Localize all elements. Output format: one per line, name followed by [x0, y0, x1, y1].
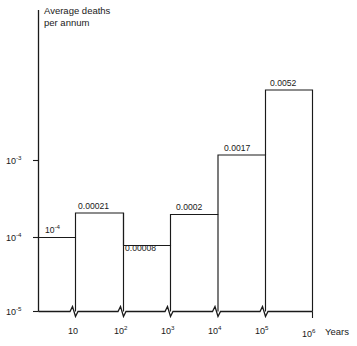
bar-outline-3 [124, 213, 171, 312]
bar-group-3 [124, 213, 171, 312]
bar-outline-2 [76, 213, 124, 312]
bar-label-5: 0.0017 [224, 143, 251, 153]
bar-outline-5 [218, 155, 266, 312]
x-tick-label-1e6: 106 [302, 327, 316, 339]
y-tick-label-1e-3: 10-3 [6, 154, 22, 166]
bar-group-4 [171, 215, 219, 312]
y-tick-label-1e-4: 10-4 [6, 231, 22, 243]
x-tick-label-1e5: 105 [255, 324, 269, 336]
bar-outline-4 [171, 215, 219, 312]
x-tick-label-10: 10 [68, 326, 78, 336]
bar-label-1: 10-4 [45, 223, 61, 235]
x-tick-label-1e3: 103 [161, 324, 175, 336]
y-axis-ticks [33, 161, 39, 312]
bar-label-4: 0.0002 [176, 202, 203, 212]
x-tick-labels: 10 102 103 104 105 106 [68, 324, 316, 339]
x-axis-title: Years [325, 326, 349, 337]
x-tick-label-1e2: 102 [114, 324, 128, 336]
chart-canvas: Average deaths per annum 10-3 10-4 10-5 … [0, 0, 357, 346]
y-tick-labels: 10-3 10-4 10-5 [6, 154, 22, 317]
bar-group-5 [218, 155, 266, 312]
chart-figure: Average deaths per annum 10-3 10-4 10-5 … [0, 0, 357, 346]
y-axis-title-line2: per annum [44, 17, 90, 28]
bar-label-3: 0.00008 [125, 243, 156, 253]
y-axis-title-line1: Average deaths [44, 5, 111, 16]
x-tick-label-1e4: 104 [208, 324, 222, 336]
y-tick-label-1e-5: 10-5 [6, 305, 22, 317]
bar-label-2: 0.00021 [78, 201, 109, 211]
bar-group-1 [39, 238, 76, 312]
bar-group-2 [76, 213, 124, 312]
bar-group-6 [266, 90, 313, 312]
bar-outline-6 [266, 90, 313, 312]
x-axis-line [39, 307, 313, 317]
bar-outline-1 [39, 238, 76, 312]
bar-label-6: 0.0052 [270, 78, 297, 88]
